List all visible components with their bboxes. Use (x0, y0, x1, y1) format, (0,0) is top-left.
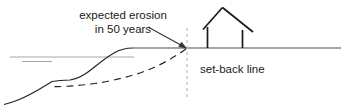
expected-eroded-profile (51, 49, 186, 87)
expected-erosion-label-line-1: expected erosion (79, 9, 167, 21)
erosion-setback-diagram: expected erosion in 50 years set-back li… (0, 0, 348, 108)
house-outline (203, 8, 253, 49)
house-roof-right-slope (223, 8, 254, 33)
set-back-line-label: set-back line (200, 62, 265, 76)
house-roof-left-slope (203, 8, 223, 30)
expected-erosion-label: expected erosion in 50 years (68, 8, 178, 36)
expected-erosion-label-line-2: in 50 years (68, 22, 178, 36)
annotation-arrow-head (179, 42, 187, 48)
